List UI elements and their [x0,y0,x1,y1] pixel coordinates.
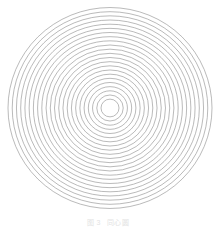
concentric-circles-diagram [0,0,216,216]
figure-caption: 图 3同心圆 [0,218,216,227]
figure-caption-label: 图 3 [87,219,101,226]
figure-root: 图 3同心圆 [0,0,216,229]
figure-caption-title: 同心圆 [107,219,129,226]
